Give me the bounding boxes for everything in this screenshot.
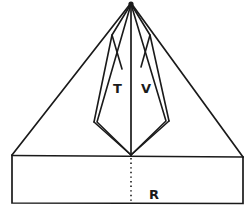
inner-kite-base-right-line [131, 121, 169, 155]
outer-pyramid-right-slope [131, 3, 243, 157]
base-line [12, 156, 243, 158]
label-r: R [149, 188, 160, 201]
diagram-canvas: T V R [0, 0, 244, 212]
label-v: V [141, 82, 152, 95]
label-t: T [113, 82, 122, 95]
inner-kite-base-left-line [94, 122, 131, 155]
outer-pyramid-left-slope [12, 3, 131, 155]
pyramid-cross-section-drawing [0, 0, 244, 212]
apex-vertex-marker [128, 1, 133, 6]
base-rectangle [12, 155, 243, 204]
